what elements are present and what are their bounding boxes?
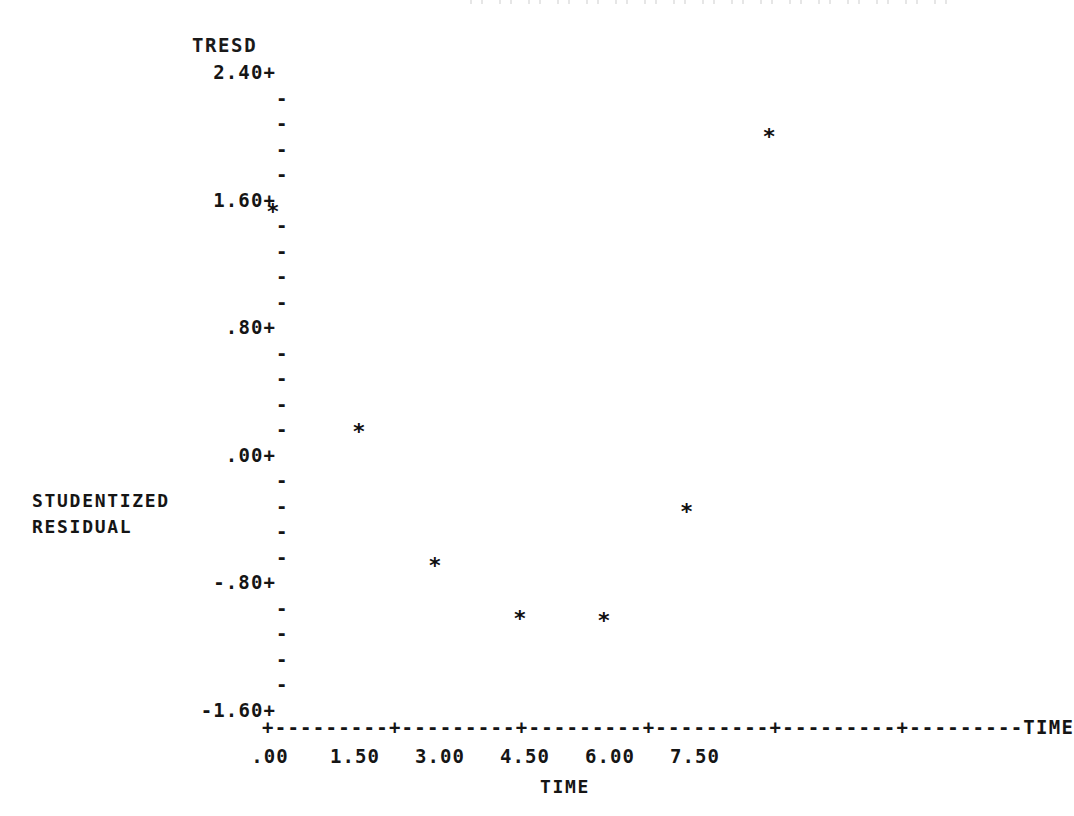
y-axis-tick-label: 1.60+ [213, 189, 276, 211]
y-axis-minor-tick: - [0, 598, 276, 618]
y-axis-minor-tick: - [0, 266, 276, 286]
y-axis-minor-tick: - [0, 368, 276, 388]
y-axis-minor-tick-glyph: - [276, 240, 290, 262]
y-axis-major-tick: -.80+ [0, 572, 276, 592]
y-axis-minor-tick-glyph: - [276, 342, 290, 364]
x-axis-tick-label: 3.00 [415, 745, 465, 767]
y-axis-minor-tick: - [0, 343, 276, 363]
y-axis-caption: STUDENTIZEDRESIDUAL [32, 488, 170, 540]
y-axis-minor-tick-glyph: - [276, 163, 290, 185]
data-point-marker: * [513, 608, 526, 630]
y-axis-tick-label: 2.40+ [213, 61, 276, 83]
y-axis: 2.40+----1.60+----.80+----.00+-----.80+-… [0, 0, 300, 816]
y-axis-minor-tick-glyph: - [276, 622, 290, 644]
y-axis-caption-line-1: STUDENTIZED [32, 490, 170, 511]
x-axis-tick-label: 7.50 [670, 745, 720, 767]
y-axis-tick-label: .80+ [226, 316, 276, 338]
y-axis-minor-tick-glyph: - [276, 495, 290, 517]
y-axis-minor-tick-glyph: - [276, 597, 290, 619]
y-axis-minor-tick-glyph: - [276, 214, 290, 236]
y-axis-major-tick: 2.40+ [0, 62, 276, 82]
x-axis-rule: +---------+---------+---------+---------… [262, 716, 1074, 738]
y-axis-minor-tick-glyph: - [276, 87, 290, 109]
y-axis-minor-tick-glyph: - [276, 418, 290, 440]
y-axis-caption-line-2: RESIDUAL [32, 516, 132, 537]
y-axis-minor-tick: - [0, 649, 276, 669]
y-axis-minor-tick-glyph: - [276, 546, 290, 568]
scan-artifact-band [470, 0, 950, 4]
y-axis-minor-tick-glyph: - [276, 393, 290, 415]
y-axis-minor-tick: - [0, 113, 276, 133]
y-axis-minor-tick: - [0, 164, 276, 184]
y-axis-minor-tick-glyph: - [276, 265, 290, 287]
y-axis-minor-tick: - [0, 419, 276, 439]
y-axis-minor-tick: - [0, 88, 276, 108]
y-axis-major-tick: -1.60+ [0, 700, 276, 720]
x-axis-caption: TIME [540, 776, 590, 797]
y-axis-minor-tick: - [0, 292, 276, 312]
y-axis-minor-tick-glyph: - [276, 520, 290, 542]
y-axis-minor-tick-glyph: - [276, 112, 290, 134]
y-axis-minor-tick: - [0, 547, 276, 567]
y-axis-minor-tick-glyph: - [276, 673, 290, 695]
x-axis-tick-label: 1.50 [330, 745, 380, 767]
y-axis-major-tick: 1.60+ [0, 190, 276, 210]
y-axis-tick-label: .00+ [226, 444, 276, 466]
data-point-marker: * [428, 555, 441, 577]
y-axis-major-tick: .80+ [0, 317, 276, 337]
x-axis-tick-label: 6.00 [585, 745, 635, 767]
y-axis-minor-tick-glyph: - [276, 469, 290, 491]
y-axis-minor-tick: - [0, 674, 276, 694]
y-axis-minor-tick: - [0, 139, 276, 159]
data-point-marker: * [597, 610, 610, 632]
y-axis-minor-tick: - [0, 241, 276, 261]
y-axis-minor-tick-glyph: - [276, 138, 290, 160]
y-axis-tick-label: -.80+ [213, 571, 276, 593]
data-point-marker: * [352, 421, 365, 443]
data-point-marker: * [680, 501, 693, 523]
y-axis-minor-tick: - [0, 215, 276, 235]
y-axis-minor-tick-glyph: - [276, 648, 290, 670]
data-point-marker: * [763, 126, 776, 148]
y-axis-minor-tick-glyph: - [276, 367, 290, 389]
x-axis-tick-label: .00 [251, 745, 289, 767]
y-axis-major-tick: .00+ [0, 445, 276, 465]
y-axis-minor-tick: - [0, 623, 276, 643]
y-axis-minor-tick-glyph: - [276, 291, 290, 313]
x-axis-tick-label: 4.50 [500, 745, 550, 767]
y-axis-minor-tick: - [0, 394, 276, 414]
